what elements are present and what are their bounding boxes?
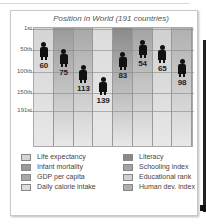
rank-marker: 83: [115, 52, 131, 80]
person-legs: [179, 74, 185, 77]
person-legs: [140, 55, 146, 58]
person-body: [158, 50, 166, 60]
rank-value: 98: [174, 78, 190, 87]
y-tick-label: 100th: [12, 68, 32, 74]
person-legs: [80, 80, 86, 83]
rank-value: 113: [75, 84, 91, 93]
person-legs: [159, 60, 165, 63]
legend-label: Literacy: [139, 153, 164, 160]
legend-label: Daily calorie intake: [37, 183, 96, 190]
legend-swatch: [123, 174, 133, 181]
legend-item: GDP per capita: [21, 173, 85, 183]
rank-value: 54: [135, 59, 151, 68]
legend-swatch: [123, 164, 133, 171]
rank-marker: 139: [95, 77, 111, 105]
legend-label: Schooling index: [139, 163, 188, 170]
gridline: [30, 93, 194, 94]
legend-label: GDP per capita: [37, 173, 85, 180]
plot-area: 1st50th100th150th191st607511313983546598: [33, 27, 193, 147]
rank-marker: 75: [56, 49, 72, 77]
page-edge: [203, 40, 206, 212]
legend-swatch: [21, 184, 31, 191]
rank-value: 75: [56, 68, 72, 77]
y-tick-label: 1st: [12, 25, 32, 31]
person-body: [60, 54, 68, 64]
chart-panel: Position in World (191 countries) 1st50t…: [10, 10, 198, 216]
gridline: [30, 111, 194, 112]
legend-label: Educational rank: [139, 173, 191, 180]
legend-item: Life expectancy: [21, 153, 86, 163]
legend-item: Schooling index: [123, 163, 188, 173]
person-icon: [160, 45, 165, 50]
legend-item: Daily calorie intake: [21, 183, 96, 193]
rank-marker: 113: [75, 65, 91, 93]
person-body: [139, 45, 147, 55]
person-body: [178, 64, 186, 74]
person-legs: [41, 57, 47, 60]
rank-value: 83: [115, 71, 131, 80]
legend-swatch: [123, 154, 133, 161]
rank-value: 60: [36, 61, 52, 70]
rank-value: 65: [154, 64, 170, 73]
column-infant-mortality: [54, 28, 74, 146]
rank-marker: 54: [135, 40, 151, 68]
rank-marker: 60: [36, 42, 52, 70]
legend-swatch: [21, 174, 31, 181]
person-body: [79, 70, 87, 80]
gridline: [30, 29, 194, 30]
rank-value: 139: [95, 96, 111, 105]
person-icon: [101, 77, 106, 82]
y-tick-label: 50th: [12, 46, 32, 52]
legend-swatch: [21, 164, 31, 171]
person-body: [119, 57, 127, 67]
legend-swatch: [123, 184, 133, 191]
rank-marker: 98: [174, 59, 190, 87]
legend-item: Literacy: [123, 153, 164, 163]
person-legs: [61, 64, 67, 67]
page-edge-mark: [200, 205, 206, 211]
rank-marker: 65: [154, 45, 170, 73]
legend-item: Infant mortality: [21, 163, 83, 173]
legend-item: Educational rank: [123, 173, 191, 183]
person-legs: [120, 67, 126, 70]
y-tick-label: 191st: [12, 107, 32, 113]
legend-item: Human dev. index: [123, 183, 195, 193]
legend-swatch: [21, 154, 31, 161]
person-body: [40, 47, 48, 57]
column-human-dev-index: [172, 28, 192, 146]
person-body: [99, 82, 107, 92]
chart-title: Position in World (191 countries): [11, 14, 197, 23]
legend-label: Human dev. index: [139, 183, 195, 190]
legend-label: Life expectancy: [37, 153, 86, 160]
top-divider: [0, 3, 190, 4]
column-literacy: [113, 28, 133, 146]
person-legs: [100, 92, 106, 95]
y-tick-label: 150th: [12, 89, 32, 95]
legend-label: Infant mortality: [37, 163, 83, 170]
